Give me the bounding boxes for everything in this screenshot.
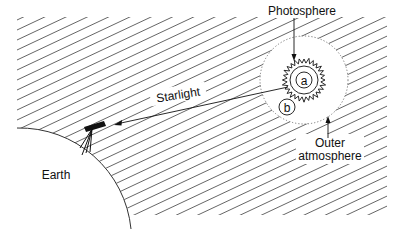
photosphere-arrowhead — [292, 54, 297, 61]
hatch-line — [17, 0, 400, 150]
earth-label: Earth — [42, 168, 71, 182]
hatch-line — [17, 220, 400, 229]
hatch-line — [17, 30, 400, 210]
hatch-line — [17, 190, 400, 229]
region-b-label: b — [284, 101, 291, 115]
hatch-line — [17, 200, 400, 229]
hatch-line — [17, 110, 400, 229]
hatch-line — [17, 40, 400, 220]
photosphere-label: Photosphere — [268, 4, 336, 18]
outer-atmosphere-label-line1: Outer — [315, 136, 345, 150]
hatch-line — [17, 0, 400, 30]
interstellar-hatching — [17, 0, 400, 229]
outer-atmosphere-label-line2: atmosphere — [298, 149, 362, 163]
starlight-label: Starlight — [155, 85, 201, 106]
hatch-line — [17, 0, 400, 50]
hatch-line — [17, 0, 400, 110]
starlight-arrowhead — [114, 120, 122, 126]
hatch-line — [17, 170, 400, 229]
region-a-label: a — [301, 74, 308, 88]
outer-atmosphere-arrowhead — [326, 116, 331, 123]
hatch-line — [17, 20, 400, 200]
stellar-atmosphere-diagram: a b Photosphere Outer atmosphere Starlig… — [0, 0, 402, 229]
